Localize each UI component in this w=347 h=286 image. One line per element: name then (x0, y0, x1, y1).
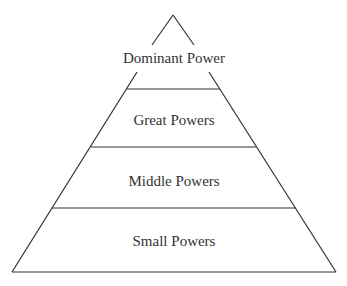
power-pyramid: Dominant Power Great Powers Middle Power… (0, 0, 347, 286)
level-label-small: Small Powers (133, 233, 216, 249)
pyramid-left-edge (12, 72, 137, 272)
level-label-great: Great Powers (133, 112, 214, 128)
pyramid-right-edge-top (173, 15, 194, 45)
pyramid-left-edge-top (152, 15, 173, 45)
pyramid-right-edge (209, 72, 336, 272)
level-label-middle: Middle Powers (128, 173, 219, 189)
level-label-dominant: Dominant Power (123, 50, 225, 66)
